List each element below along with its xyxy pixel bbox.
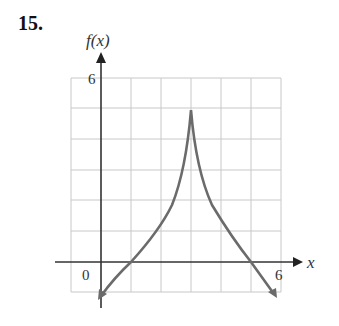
curve [101,110,274,296]
x-axis-arrow-icon [293,257,303,267]
function-graph: f(x) x 6 0 6 [0,0,339,326]
origin-label: 0 [82,267,90,283]
axes [55,62,296,308]
x-axis-label: x [306,253,315,272]
y-axis-label: f(x) [86,31,110,50]
x-tick-6: 6 [275,267,283,283]
y-tick-6: 6 [88,71,96,87]
y-axis-arrow-icon [96,52,106,63]
